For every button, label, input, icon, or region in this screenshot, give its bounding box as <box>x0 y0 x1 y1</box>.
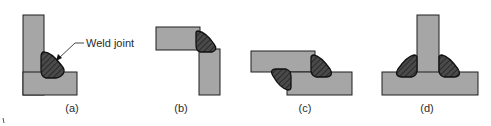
weld-bead-left <box>272 69 291 90</box>
stray-mark <box>3 118 4 123</box>
figure-d <box>382 15 478 95</box>
caption-d: (d) <box>420 102 433 114</box>
figure-b <box>156 27 220 95</box>
caption-a: (a) <box>65 102 78 114</box>
plate-vertical <box>199 49 220 95</box>
weld-joint-callout-label: Weld joint <box>86 37 134 49</box>
arrowhead-icon <box>56 54 62 61</box>
weld-bead <box>196 31 216 52</box>
weld-bead-right <box>439 55 459 77</box>
plate-horizontal <box>156 27 200 50</box>
figure-c <box>251 51 352 95</box>
weld-bead-left <box>397 55 417 77</box>
caption-c: (c) <box>299 102 312 114</box>
caption-b: (b) <box>174 102 187 114</box>
plate-horizontal <box>382 72 478 95</box>
figure-a <box>23 15 84 95</box>
weld-bead-right <box>311 55 331 77</box>
plate-vertical <box>417 15 439 73</box>
weld-bead <box>41 52 64 78</box>
